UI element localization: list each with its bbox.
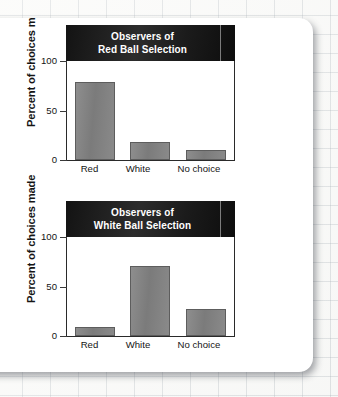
y-tick-0-top: 0 — [60, 160, 67, 161]
bar-top-red — [75, 82, 115, 160]
y-tick-100-top: 100 — [60, 61, 67, 62]
x-label-top-red: Red — [81, 163, 99, 174]
bar-bottom-white — [130, 266, 170, 336]
y-tick-50-bottom: 50 — [60, 287, 67, 288]
y-tick-label-0-top: 0 — [52, 154, 57, 165]
chart-title-top-line2: Red Ball Selection — [98, 43, 187, 56]
figure-card: Percent of choices made Observers of Red… — [0, 18, 313, 372]
x-label-bottom-no-choice: No choice — [178, 339, 221, 350]
y-tick-label-0-bottom: 0 — [52, 330, 57, 341]
bar-top-white — [130, 142, 170, 160]
chart-title-bottom-line1: Observers of — [111, 206, 174, 219]
chart-title-bottom: Observers of White Ball Selection — [66, 201, 235, 237]
y-tick-label-50-bottom: 50 — [46, 281, 57, 292]
chart-title-top: Observers of Red Ball Selection — [66, 25, 235, 61]
bar-bottom-red — [75, 327, 115, 336]
y-tick-label-50-top: 50 — [46, 105, 57, 116]
y-axis-title-bottom: Percent of choices made — [25, 181, 37, 303]
chart-title-top-line1: Observers of — [111, 30, 174, 43]
x-axis-labels-top: Red White No choice — [67, 163, 234, 174]
y-axis-title-top: Percent of choices made — [25, 18, 37, 127]
y-tick-label-100-bottom: 100 — [41, 231, 57, 242]
y-tick-50-top: 50 — [60, 111, 67, 112]
x-label-bottom-red: Red — [81, 339, 99, 350]
chart-observers-white-ball: Percent of choices made Observers of Whi… — [0, 198, 290, 372]
bar-top-no-choice — [186, 150, 226, 160]
x-label-top-white: White — [126, 163, 151, 174]
bar-group-top — [67, 61, 234, 160]
y-tick-100-bottom: 100 — [60, 237, 67, 238]
x-label-top-no-choice: No choice — [178, 163, 221, 174]
x-axis-labels-bottom: Red White No choice — [67, 339, 234, 350]
chart-title-bottom-line2: White Ball Selection — [94, 219, 192, 232]
x-label-bottom-white: White — [126, 339, 151, 350]
bar-group-bottom — [67, 237, 234, 336]
y-tick-0-bottom: 0 — [60, 336, 67, 337]
bar-bottom-no-choice — [186, 309, 226, 336]
y-tick-label-100-top: 100 — [41, 55, 57, 66]
chart-observers-red-ball: Percent of choices made Observers of Red… — [0, 22, 290, 198]
